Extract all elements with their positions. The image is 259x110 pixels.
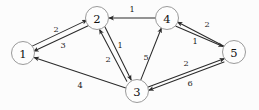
node-1[interactable]: 1 [12, 42, 35, 65]
edge-weight-5-3: 6 [187, 78, 192, 88]
edges-layer [32, 18, 224, 90]
node-4[interactable]: 4 [156, 7, 179, 30]
edge-weight-3-2: 2 [105, 54, 110, 64]
edge-weight-3-4: 5 [143, 52, 148, 62]
nodes-layer: 1 2 3 4 5 [12, 7, 246, 103]
edge-5-to-4 [178, 22, 225, 46]
edge-3-to-2 [100, 29, 127, 81]
edge-weights-layer: 2 3 1 1 2 5 2 1 2 6 4 [53, 4, 209, 90]
graph-canvas: 1 2 3 4 5 2 3 1 1 2 5 [0, 0, 259, 110]
node-3-label: 3 [133, 85, 140, 99]
edge-weight-3-1: 4 [77, 80, 82, 90]
edge-weight-2-3: 1 [117, 40, 122, 50]
edge-weight-3-5: 2 [183, 58, 188, 68]
edge-weight-4-5: 1 [192, 36, 197, 46]
node-4-label: 4 [163, 12, 170, 26]
edge-weight-4-2: 1 [129, 4, 134, 14]
node-5[interactable]: 5 [223, 41, 246, 64]
node-2[interactable]: 2 [86, 7, 109, 30]
node-1-label: 1 [19, 47, 26, 61]
node-5-label: 5 [230, 46, 237, 60]
edge-weight-1-2: 2 [53, 24, 58, 34]
edge-weight-2-1: 3 [60, 40, 65, 50]
graph-figure: 1 2 3 4 5 2 3 1 1 2 5 [0, 0, 259, 110]
edge-4-to-5 [176, 26, 223, 46]
node-3[interactable]: 3 [126, 80, 149, 103]
edge-weight-5-4: 2 [204, 19, 209, 29]
node-2-label: 2 [93, 12, 100, 26]
